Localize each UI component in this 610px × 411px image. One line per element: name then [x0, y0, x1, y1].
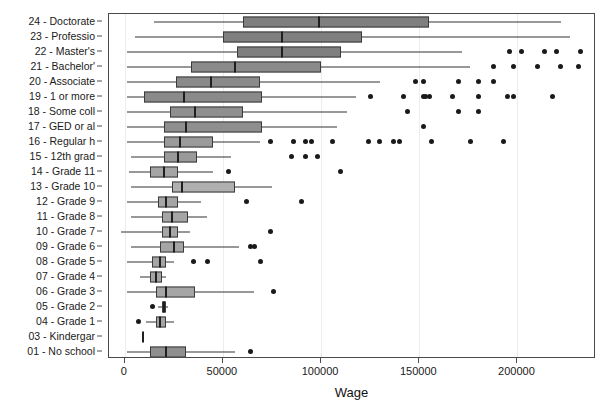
y-tick-mark	[97, 245, 102, 246]
y-tick-mark	[97, 335, 102, 336]
outlier-point	[550, 94, 555, 99]
outlier-point	[303, 154, 308, 159]
outlier-point	[476, 109, 481, 114]
outlier-point	[191, 259, 196, 264]
whisker-high	[166, 306, 168, 307]
whisker-low	[127, 66, 192, 67]
whisker-low	[146, 321, 156, 322]
box-row	[109, 150, 594, 164]
y-tick-mark	[97, 320, 102, 321]
y-tick-label: 12 - Grade 9	[36, 195, 95, 206]
outlier-point	[289, 154, 294, 159]
outlier-point	[427, 94, 432, 99]
whisker-high	[260, 81, 380, 82]
box-iqr	[164, 121, 262, 132]
whisker-low	[154, 21, 242, 22]
y-tick-mark	[97, 125, 102, 126]
y-tick-mark	[97, 110, 102, 111]
whisker-high	[341, 51, 463, 52]
outlier-point	[136, 319, 141, 324]
plot-panel	[108, 13, 595, 358]
y-tick-mark	[97, 200, 102, 201]
outlier-point	[377, 139, 382, 144]
x-axis-title: Wage	[108, 385, 595, 400]
outlier-point	[501, 139, 506, 144]
box-iqr	[164, 151, 197, 162]
outlier-point	[268, 139, 273, 144]
outlier-point	[303, 139, 308, 144]
box-iqr	[144, 91, 262, 102]
median-line	[163, 166, 165, 177]
whisker-high	[178, 171, 213, 172]
box-row	[109, 345, 594, 359]
whisker-low	[131, 246, 160, 247]
y-tick-mark	[97, 155, 102, 156]
whisker-high	[321, 66, 470, 67]
y-tick-label: 09 - Grade 6	[36, 240, 95, 251]
y-tick-label: 20 - Associate	[29, 75, 95, 86]
outlier-point	[309, 139, 314, 144]
outlier-point	[268, 229, 273, 234]
y-tick-label: 01 - No school	[27, 345, 95, 356]
box-row	[109, 330, 594, 344]
y-tick-label: 22 - Master's	[35, 45, 95, 56]
whisker-low	[135, 36, 223, 37]
median-line	[165, 286, 167, 297]
y-tick-label: 03 - Kindergar	[28, 330, 95, 341]
median-line	[281, 46, 283, 57]
median-line	[159, 316, 161, 327]
outlier-point	[315, 154, 320, 159]
whisker-high	[178, 201, 202, 202]
whisker-low	[131, 156, 164, 157]
outlier-point	[405, 109, 410, 114]
median-line	[281, 31, 283, 42]
box-row	[109, 45, 594, 59]
box-row	[109, 60, 594, 74]
whisker-high	[184, 246, 239, 247]
y-tick-label: 18 - Some coll	[28, 105, 95, 116]
median-line	[183, 91, 185, 102]
outlier-point	[476, 79, 481, 84]
y-tick-mark	[97, 35, 102, 36]
median-line	[173, 241, 175, 252]
whisker-low	[127, 351, 151, 352]
outlier-point	[397, 139, 402, 144]
box-row	[109, 105, 594, 119]
box-row	[109, 210, 594, 224]
y-tick-label: 06 - Grade 3	[36, 285, 95, 296]
y-tick-label: 13 - Grade 10	[30, 180, 95, 191]
box-row	[109, 255, 594, 269]
x-axis: 050000100000150000200000	[108, 358, 595, 388]
y-tick-mark	[97, 290, 102, 291]
outlier-point	[421, 79, 426, 84]
y-tick-mark	[97, 350, 102, 351]
whisker-low	[127, 81, 176, 82]
outlier-point	[450, 94, 455, 99]
x-tick-mark	[418, 358, 419, 363]
y-tick-mark	[97, 215, 102, 216]
median-line	[163, 301, 165, 312]
box-iqr	[191, 61, 321, 72]
outlier-point	[558, 64, 563, 69]
y-tick-mark	[97, 230, 102, 231]
box-iqr	[164, 136, 213, 147]
box-iqr	[243, 16, 430, 27]
whisker-low	[127, 126, 164, 127]
whisker-low	[140, 276, 150, 277]
outlier-point	[226, 169, 231, 174]
whisker-low	[127, 261, 153, 262]
box-row	[109, 180, 594, 194]
x-tick-mark	[124, 358, 125, 363]
x-tick-label: 150000	[400, 365, 437, 377]
outlier-point	[291, 139, 296, 144]
whisker-low	[127, 141, 164, 142]
outlier-point	[368, 94, 373, 99]
y-tick-label: 16 - Regular h	[28, 135, 95, 146]
whisker-low	[131, 216, 162, 217]
whisker-low	[127, 111, 170, 112]
y-tick-mark	[97, 185, 102, 186]
median-line	[171, 211, 173, 222]
median-line	[318, 16, 320, 27]
outlier-point	[511, 94, 516, 99]
box-iqr	[176, 76, 260, 87]
